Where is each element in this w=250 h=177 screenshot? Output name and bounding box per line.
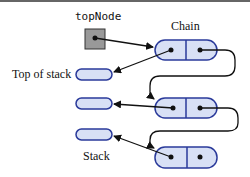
chain-label: Chain — [171, 19, 200, 33]
top-of-stack-label: Top of stack — [12, 67, 71, 81]
top-border — [0, 0, 250, 2]
chain-node-3 — [155, 147, 217, 168]
linked-stack-diagram: topNode Chain Top of stack Stack — [0, 0, 250, 177]
stack-entry-2 — [76, 98, 112, 109]
stack-label: Stack — [83, 149, 110, 163]
top-node-label: topNode — [75, 10, 121, 23]
diagram-canvas: topNode Chain Top of stack Stack — [0, 0, 250, 177]
stack-entry-3 — [76, 129, 112, 140]
stack-entry-1 — [76, 69, 112, 80]
